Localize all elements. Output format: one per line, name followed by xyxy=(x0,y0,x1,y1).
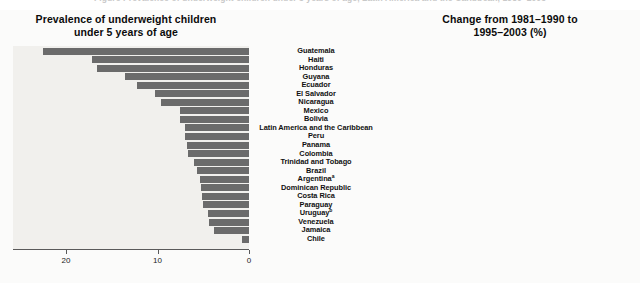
right-chart-title-line1: Change from 1981–1990 to xyxy=(380,13,640,26)
bar-prevalence xyxy=(214,227,249,234)
right-chart-panel: Change from 1981–1990 to 1995–2003 (%) –… xyxy=(380,0,640,283)
country-label-footnote-marker: a xyxy=(332,173,335,179)
bar-prevalence xyxy=(185,124,249,131)
left-chart-axis-line xyxy=(13,249,249,250)
country-label-footnote-marker: b xyxy=(329,207,332,213)
left-chart-title: Prevalence of underweight children under… xyxy=(0,13,252,38)
left-chart-plot-area: 20100 xyxy=(13,46,249,249)
bar-prevalence xyxy=(242,236,249,243)
bar-prevalence xyxy=(180,116,249,123)
bar-prevalence xyxy=(185,133,249,140)
bar-prevalence xyxy=(188,150,249,157)
bar-prevalence xyxy=(203,201,249,208)
left-chart-tick xyxy=(66,250,67,254)
bar-prevalence xyxy=(97,65,249,72)
bar-prevalence xyxy=(200,176,249,183)
bar-prevalence xyxy=(201,184,249,191)
bar-prevalence xyxy=(92,56,249,63)
left-chart-title-line2: under 5 years of age xyxy=(0,26,252,39)
bar-prevalence xyxy=(197,167,249,174)
left-chart-tick-label: 20 xyxy=(62,256,71,265)
bar-prevalence xyxy=(202,193,249,200)
bar-prevalence xyxy=(161,99,249,106)
bar-prevalence xyxy=(208,210,249,217)
country-list: GuatemalaHaitiHondurasGuyanaEcuadorEl Sa… xyxy=(252,47,380,244)
country-label-column: GuatemalaHaitiHondurasGuyanaEcuadorEl Sa… xyxy=(252,0,380,283)
bar-prevalence xyxy=(180,107,249,114)
right-chart-title-line2: 1995–2003 (%) xyxy=(380,26,640,39)
country-label: Chile xyxy=(252,235,380,244)
right-chart-title: Change from 1981–1990 to 1995–2003 (%) xyxy=(380,13,640,38)
bar-prevalence xyxy=(137,82,249,89)
left-chart-tick xyxy=(158,250,159,254)
bar-prevalence xyxy=(43,48,249,55)
left-chart-title-line1: Prevalence of underweight children xyxy=(0,13,252,26)
bar-prevalence xyxy=(194,159,249,166)
bar-prevalence xyxy=(125,73,249,80)
bar-prevalence xyxy=(187,142,249,149)
left-chart-tick-label: 0 xyxy=(247,256,251,265)
left-chart-panel: Prevalence of underweight children under… xyxy=(0,0,252,283)
left-chart-tick-label: 10 xyxy=(153,256,162,265)
bar-prevalence xyxy=(209,219,249,226)
bar-prevalence xyxy=(155,90,249,97)
left-chart-tick xyxy=(249,250,250,254)
